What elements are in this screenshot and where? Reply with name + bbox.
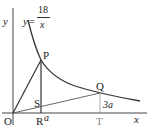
point-T-label: T [96, 116, 103, 127]
point-Q-label: Q [96, 81, 104, 92]
curve-equation-lhs: y= [23, 16, 35, 27]
x-axis-label: x [134, 114, 139, 125]
curve-denominator: x [40, 20, 44, 30]
curve-numerator: 18 [38, 5, 48, 15]
annotation-a: a [44, 113, 49, 123]
point-R-label: R [36, 116, 43, 127]
point-S-label: S [34, 98, 40, 109]
point-P-label: P [43, 50, 49, 61]
diagram: y y= 18 x P Q S 3a O R a T x [0, 0, 149, 135]
annotation-3a: 3a [103, 100, 113, 110]
origin-label: O [4, 116, 12, 127]
fraction-bar [37, 17, 50, 18]
y-axis-label: y [3, 16, 8, 27]
segment-OQ [13, 93, 100, 113]
